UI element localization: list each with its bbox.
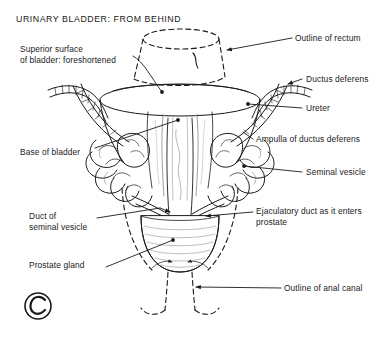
prostate-gland (141, 216, 219, 272)
label-base-of-bladder: Base of bladder (20, 147, 80, 158)
label-duct-of-seminal-vesicle: Duct of seminal vesicle (29, 211, 87, 232)
label-outline-of-anal-canal: Outline of anal canal (284, 283, 362, 294)
leader-seminal-vesicle (244, 166, 302, 172)
rectum-fold (193, 53, 198, 68)
bladder-superior-surface (100, 84, 260, 116)
leader-ejaculatory-duct (206, 212, 253, 216)
seminal-vesicle-right (208, 140, 274, 207)
label-seminal-vesicle: Seminal vesicle (306, 167, 366, 178)
leader-ductus-deferens (288, 79, 302, 84)
label-outline-of-rectum: Outline of rectum (295, 33, 360, 44)
ampulla-right (211, 133, 243, 167)
label-ureter: Ureter (306, 103, 330, 114)
ureter-left (48, 85, 108, 122)
ductus-deferens-left (73, 84, 129, 146)
rectum-outline-dashed (134, 29, 225, 86)
ureter-right (252, 85, 312, 122)
leader-ureter (248, 104, 302, 108)
leader-outline-of-anal-canal (196, 287, 281, 288)
plate-mark-circle (25, 293, 51, 319)
label-ejaculatory-duct: Ejaculatory duct as it enters prostate (256, 206, 380, 227)
bladder-base (100, 100, 260, 215)
label-prostate-gland: Prostate gland (29, 260, 84, 271)
label-superior-surface: Superior surface of bladder: foreshorten… (20, 44, 116, 65)
leader-outline-of-rectum (227, 38, 292, 50)
seminal-vesicle-left (86, 140, 152, 207)
label-ductus-deferens: Ductus deferens (306, 74, 369, 85)
label-ampulla-of-ductus-deferens: Ampulla of ductus deferens (256, 134, 360, 145)
